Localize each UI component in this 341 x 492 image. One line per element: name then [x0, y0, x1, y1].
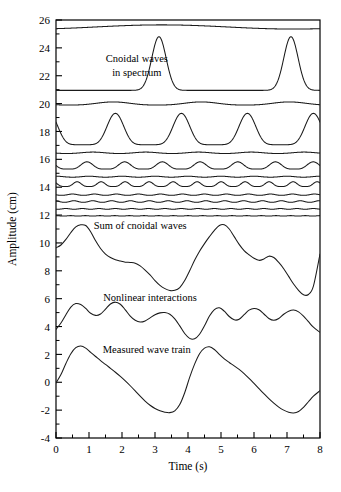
x-axis-title: Time (s)	[169, 460, 208, 473]
sum-of-cnoidal-waves-label: Sum of cnoidal waves	[94, 220, 187, 231]
in-spectrum-label: in spectrum	[112, 67, 161, 78]
measured-wave-train-label: Measured wave train	[103, 344, 192, 355]
x-tick-label: 8	[317, 443, 323, 455]
y-tick-label: 18	[39, 126, 51, 138]
x-tick-label: 7	[284, 443, 290, 455]
y-tick-label: 12	[39, 209, 50, 221]
x-tick-label: 6	[251, 443, 257, 455]
y-tick-label: 26	[39, 14, 51, 26]
x-tick-label: 4	[185, 443, 191, 455]
y-tick-label: 6	[45, 293, 51, 305]
x-tick-label: 0	[53, 443, 59, 455]
y-tick-label: 0	[45, 376, 51, 388]
chart-canvas: -4-202468101214161820222426012345678Time…	[0, 0, 341, 492]
x-tick-label: 1	[86, 443, 92, 455]
y-tick-label: 22	[39, 70, 50, 82]
y-tick-label: 8	[45, 265, 51, 277]
y-tick-label: 16	[39, 153, 51, 165]
x-tick-label: 3	[152, 443, 158, 455]
y-tick-label: 10	[39, 237, 51, 249]
y-axis-title: Amplitude (cm)	[6, 192, 19, 266]
y-tick-label: 4	[45, 321, 51, 333]
x-tick-label: 2	[119, 443, 125, 455]
nonlinear-interactions-label: Nonlinear interactions	[103, 292, 197, 303]
y-tick-label: 24	[39, 42, 51, 54]
y-tick-label: -2	[41, 404, 50, 416]
x-tick-label: 5	[218, 443, 224, 455]
y-tick-label: 20	[39, 98, 51, 110]
y-tick-label: 2	[45, 349, 51, 361]
y-tick-label: -4	[41, 432, 51, 444]
figure-container: -4-202468101214161820222426012345678Time…	[0, 0, 341, 492]
y-tick-label: 14	[39, 181, 51, 193]
cnoidal-waves-label: Cnoidal waves	[106, 53, 168, 64]
